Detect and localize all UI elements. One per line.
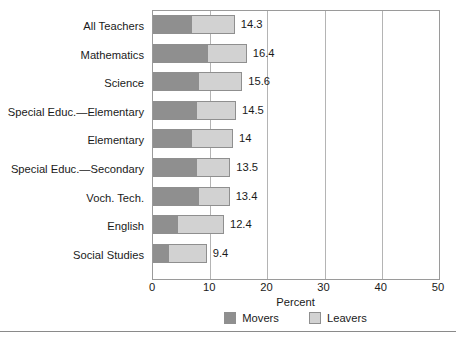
legend-entry: Leavers [309,312,367,324]
category-label: Social Studies [73,248,144,262]
bar-row: 14.3 [153,15,439,34]
bar-row: 16.4 [153,44,439,63]
bar-value-label: 13.5 [236,160,258,175]
bar-value-label: 14 [239,131,251,146]
bar-segment-leavers [199,187,230,206]
bar-value-label: 16.4 [253,46,275,61]
x-tick-label-40: 40 [375,280,387,294]
x-tick-label-50: 50 [432,280,444,294]
stacked-bar-chart-figure: All TeachersMathematicsScienceSpecial Ed… [0,0,456,340]
bar-row: 15.6 [153,72,439,91]
bar-segment-movers [153,129,192,148]
x-axis-title: Percent [152,296,439,308]
bar-value-label: 13.4 [236,189,258,204]
x-tick-label-10: 10 [203,280,215,294]
bar-segment-movers [153,244,169,263]
category-axis: All TeachersMathematicsScienceSpecial Ed… [0,12,148,274]
x-tick-label-30: 30 [317,280,329,294]
legend-swatch-icon [309,312,321,324]
bar-segment-leavers [178,215,224,234]
category-label: Special Educ.—Secondary [11,162,144,176]
bar-value-label: 15.6 [248,74,270,89]
bar-segment-movers [153,158,197,177]
category-label: Elementary [87,133,144,147]
bottom-divider-rule [0,331,456,332]
x-tick-label-0: 0 [149,280,155,294]
bar-row: 12.4 [153,215,439,234]
category-label: Special Educ.—Elementary [8,105,144,119]
category-label: English [107,219,144,233]
bar-value-label: 9.4 [213,246,229,261]
bar-segment-leavers [208,44,247,63]
legend-label: Movers [242,312,279,324]
bar-segment-leavers [169,244,207,263]
bar-segment-movers [153,215,178,234]
category-label: Mathematics [81,48,144,62]
chart-legend: MoversLeavers [152,310,439,326]
bar-segment-leavers [199,72,242,91]
bar-segment-leavers [197,158,230,177]
bar-value-label: 14.5 [242,103,264,118]
x-tick-label-20: 20 [260,280,272,294]
bar-segment-movers [153,72,199,91]
bar-segment-leavers [192,15,235,34]
bar-row: 9.4 [153,244,439,263]
bar-segment-movers [153,187,199,206]
bar-segment-movers [153,15,192,34]
bar-segment-leavers [192,129,233,148]
plot-area: 14.316.415.614.51413.513.412.49.4 [152,10,440,280]
bar-value-label: 12.4 [230,217,252,232]
category-label: Voch. Tech. [86,191,144,205]
bar-value-label: 14.3 [241,17,263,32]
bar-segment-movers [153,101,197,120]
bar-segment-leavers [197,101,236,120]
bar-row: 14.5 [153,101,439,120]
x-axis-ticks: 01020304050 [152,280,439,296]
legend-entry: Movers [224,312,279,324]
bar-row: 14 [153,129,439,148]
legend-label: Leavers [327,312,367,324]
bar-row: 13.4 [153,187,439,206]
category-label: Science [104,76,144,90]
bar-segment-movers [153,44,208,63]
category-label: All Teachers [83,19,144,33]
legend-swatch-icon [224,312,236,324]
bar-row: 13.5 [153,158,439,177]
